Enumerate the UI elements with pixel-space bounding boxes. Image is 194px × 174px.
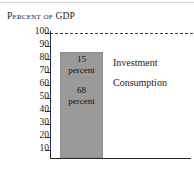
y-tick-mark-70	[45, 72, 50, 73]
investment-unit: percent	[68, 65, 94, 75]
consumption-series-label: Consumption	[113, 77, 167, 88]
y-axis-line	[50, 31, 51, 159]
y-tick-mark-50	[45, 98, 50, 99]
y-tick-label-30: 30	[40, 117, 50, 127]
consumption-value-label: 68 percent	[60, 85, 103, 106]
y-tick-label-50: 50	[40, 91, 50, 101]
y-tick-mark-40	[45, 111, 50, 112]
y-tick-label-40: 40	[40, 104, 50, 114]
investment-value: 15	[77, 54, 86, 64]
y-tick-label-100: 100	[35, 26, 49, 36]
y-tick-label-90: 90	[40, 39, 50, 49]
y-tick-label-10: 10	[40, 143, 50, 153]
y-tick-mark-10	[45, 150, 50, 151]
y-tick-mark-60	[45, 85, 50, 86]
investment-series-label: Investment	[113, 57, 157, 68]
plot-area: 100 90 80 70 60 50 40 30	[0, 0, 194, 174]
y-tick-mark-30	[45, 124, 50, 125]
y-tick-label-60: 60	[40, 78, 50, 88]
consumption-value: 68	[77, 85, 86, 95]
y-tick-mark-20	[45, 137, 50, 138]
consumption-unit: percent	[68, 96, 94, 106]
y-tick-label-70: 70	[40, 65, 50, 75]
chart-figure: Percent of GDP 100 90 80 70 60 50 4	[0, 0, 194, 174]
y-tick-label-80: 80	[40, 52, 50, 62]
y-tick-mark-80	[45, 59, 50, 60]
y-tick-mark-90	[45, 46, 50, 47]
x-axis-line	[50, 158, 191, 159]
y-tick-label-20: 20	[40, 130, 50, 140]
reference-line-100-percent	[50, 33, 193, 34]
investment-value-label: 15 percent	[60, 54, 103, 75]
